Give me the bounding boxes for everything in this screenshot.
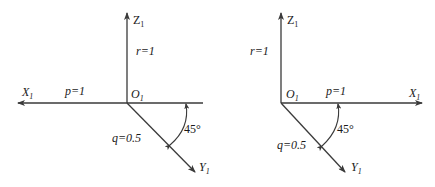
left-axes-diagram: Z1 r=1 X1 p=1 O1 45° q=0.5 Y1 <box>18 13 210 176</box>
right-angle-label: 45° <box>337 122 354 136</box>
right-p-label: p=1 <box>325 84 346 98</box>
right-origin-label: O1 <box>286 87 299 103</box>
right-r-label: r=1 <box>250 44 269 58</box>
left-y-label: Y1 <box>199 160 210 176</box>
left-angle-label: 45° <box>184 122 201 136</box>
axonometric-axes-figure: Z1 r=1 X1 p=1 O1 45° q=0.5 Y1 Z1 r=1 O1 … <box>0 0 435 187</box>
right-z-label: Z1 <box>287 13 298 29</box>
right-y-label: Y1 <box>351 160 362 176</box>
right-axes-diagram: Z1 r=1 O1 p=1 X1 45° q=0.5 Y1 <box>250 13 422 176</box>
right-q-label: q=0.5 <box>277 138 306 152</box>
left-r-label: r=1 <box>136 44 155 58</box>
left-z-label: Z1 <box>133 13 144 29</box>
right-x-label: X1 <box>408 86 420 102</box>
left-origin-label: O1 <box>131 87 144 103</box>
left-q-label: q=0.5 <box>112 131 141 145</box>
left-x-label: X1 <box>21 85 33 101</box>
left-p-label: p=1 <box>64 84 85 98</box>
